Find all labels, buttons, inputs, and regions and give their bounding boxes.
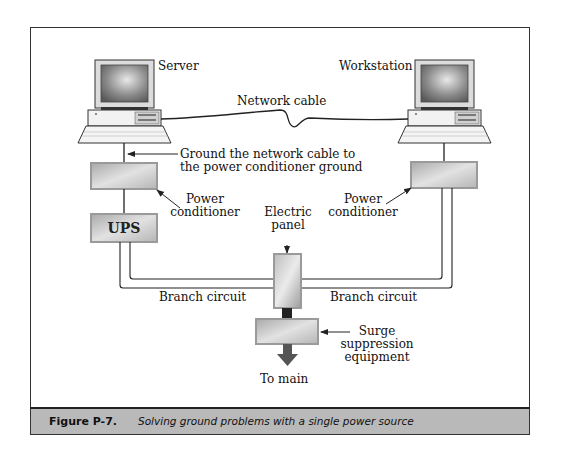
server-power-conditioner-label: Power conditioner	[170, 193, 240, 219]
surge-label-line3: equipment	[337, 351, 417, 364]
ground-note-line2: the power conditioner ground	[180, 161, 363, 174]
figure-caption-text: Solving ground problems with a single po…	[138, 415, 414, 427]
surge-suppression-box	[256, 319, 318, 344]
electric-panel-label: Electric panel	[258, 206, 318, 232]
surge-suppression-label: Surge suppression equipment	[337, 325, 417, 364]
electric-panel-box	[274, 254, 301, 308]
branch-circuit-right-label: Branch circuit	[330, 291, 417, 304]
server-pc-label-line2: conditioner	[170, 206, 240, 219]
figure-caption: Figure P-7. Solving ground problems with…	[30, 407, 530, 435]
figure-label: Figure P-7.	[49, 415, 117, 428]
branch-circuit-left	[130, 242, 274, 279]
to-main-label: To main	[260, 373, 308, 386]
network-cable-line	[161, 110, 408, 127]
ws-pc-label-line2: conditioner	[328, 206, 398, 219]
to-main-arrow	[277, 344, 298, 366]
electric-panel-label-line2: panel	[258, 219, 318, 232]
server-power-conditioner-box	[91, 163, 157, 189]
workstation-power-conditioner-box	[411, 162, 477, 188]
workstation-power-conditioner-label: Power conditioner	[328, 193, 398, 219]
workstation-label: Workstation	[339, 60, 413, 73]
server-label: Server	[158, 60, 199, 73]
branch-circuit-left-label: Branch circuit	[159, 291, 246, 304]
ups-label: UPS	[91, 214, 157, 242]
network-cable-label: Network cable	[237, 95, 326, 108]
